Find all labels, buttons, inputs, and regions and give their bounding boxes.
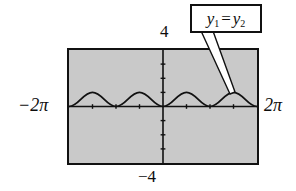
y-min-label: −4 <box>138 167 156 187</box>
callout-y1-subscript: 1 <box>214 18 219 29</box>
callout-equals-symbol: = <box>219 9 233 28</box>
x-min-label: −2π <box>18 95 48 116</box>
graph-plot-area <box>69 50 257 163</box>
callout-label-text: y1=y2 <box>207 10 246 27</box>
callout-label-box: y1=y2 <box>190 4 262 33</box>
y-max-label: 4 <box>160 22 169 42</box>
callout-y2-subscript: 2 <box>240 18 245 29</box>
graph-viewing-window <box>67 48 259 165</box>
x-max-label: 2π <box>264 95 282 116</box>
figure-container: ) <box>0 0 296 191</box>
